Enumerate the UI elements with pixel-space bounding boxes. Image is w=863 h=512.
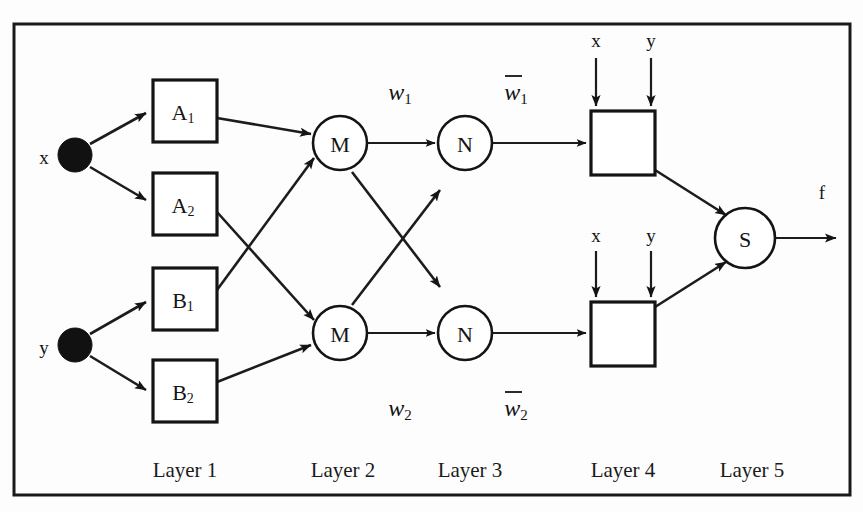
layer3-node-N1-label: N <box>457 132 473 157</box>
weight-label-w1-base: w <box>388 79 404 105</box>
layer1-node-A1-label: A <box>172 100 188 125</box>
layer5-nodes: S f <box>715 182 826 269</box>
layer1-node-A1[interactable]: A1 <box>153 80 217 142</box>
weight-label-w1bar-subscript: 1 <box>520 91 528 107</box>
layer2-node-M1[interactable]: M <box>313 116 367 170</box>
layer5-node-S[interactable]: S <box>715 208 775 268</box>
layer-caption-2: Layer 2 <box>311 458 376 482</box>
output-label-f: f <box>819 182 826 203</box>
input-label-y: y <box>39 337 49 358</box>
diagram-canvas: x y A1 A2 B1 <box>0 0 863 512</box>
edge-A2-to-M2 <box>217 212 314 320</box>
weight-label-w1: w1 <box>388 79 412 107</box>
layer3-node-N2[interactable]: N <box>438 306 492 360</box>
layer1-node-B1-label: B <box>172 288 187 313</box>
edge-y-to-B2 <box>90 356 146 390</box>
layer3-node-N1[interactable]: N <box>438 116 492 170</box>
layer4-node-C1[interactable] <box>591 111 655 175</box>
anfis-diagram: x y A1 A2 B1 <box>0 0 863 512</box>
edges-input-to-layer1 <box>90 113 146 390</box>
weight-label-w2-base: w <box>388 395 404 421</box>
input-nodes: x y <box>39 138 92 362</box>
layer4-node-C2[interactable] <box>591 302 655 366</box>
layer1-node-A2[interactable]: A2 <box>153 173 217 235</box>
input-label-x: x <box>39 147 49 168</box>
layer2-node-M2[interactable]: M <box>313 306 367 360</box>
layer1-node-A2-subscript: 2 <box>187 204 194 219</box>
edge-M1-to-N2 <box>352 172 440 287</box>
layer4-input-label-x-bottom: x <box>591 225 601 246</box>
layer-caption-3: Layer 3 <box>438 458 503 482</box>
layer2-node-M2-label: M <box>330 322 350 347</box>
edge-x-to-A2 <box>90 167 146 200</box>
weight-label-w2-subscript: 2 <box>404 407 412 423</box>
edge-C2-to-S <box>655 262 726 307</box>
layer4-input-label-y-top: y <box>646 30 656 51</box>
edge-y-to-B1 <box>90 302 146 334</box>
edges-layer2-to-layer3 <box>352 143 440 333</box>
layer4-input-label-y-bottom: y <box>646 225 656 246</box>
edges-xy-into-layer4 <box>596 58 651 297</box>
edge-M2-to-N1 <box>352 190 440 305</box>
weight-label-w2bar-subscript: 2 <box>520 407 528 423</box>
layer5-node-S-label: S <box>739 227 751 252</box>
edge-x-to-A1 <box>90 113 146 144</box>
input-node-x[interactable] <box>58 138 92 172</box>
layer3-nodes: N N <box>438 116 492 360</box>
layer-captions: Layer 1 Layer 2 Layer 3 Layer 4 Layer 5 <box>153 458 785 482</box>
layer-caption-1: Layer 1 <box>153 458 218 482</box>
weight-label-w2bar: w2 <box>504 395 528 423</box>
layer1-nodes: A1 A2 B1 B2 <box>153 80 217 422</box>
weight-label-w1-subscript: 1 <box>404 91 412 107</box>
layer2-node-M1-label: M <box>330 132 350 157</box>
layer4-input-label-x-top: x <box>591 30 601 51</box>
layer3-node-N2-label: N <box>457 322 473 347</box>
weight-label-w1bar: w1 <box>504 79 528 107</box>
layer1-node-B2-subscript: 2 <box>187 391 194 406</box>
layer1-node-B1[interactable]: B1 <box>153 268 217 330</box>
layer1-node-B2-label: B <box>172 380 187 405</box>
layer1-node-B1-subscript: 1 <box>187 299 194 314</box>
input-node-y[interactable] <box>58 328 92 362</box>
edge-B2-to-M2 <box>217 345 311 382</box>
layer1-node-A2-label: A <box>172 193 188 218</box>
layer1-node-A1-subscript: 1 <box>187 111 194 126</box>
layer2-nodes: M M <box>313 116 367 360</box>
edge-C1-to-S <box>655 170 726 215</box>
edge-B1-to-M1 <box>217 158 314 290</box>
weight-label-w1bar-base: w <box>504 79 520 105</box>
edges-layer1-to-layer2 <box>217 118 314 382</box>
weight-label-w2bar-base: w <box>504 395 520 421</box>
edge-A1-to-M1 <box>217 118 311 134</box>
layer-caption-4: Layer 4 <box>591 458 656 482</box>
layer1-node-B2[interactable]: B2 <box>153 360 217 422</box>
layer4-nodes: x y x y <box>591 30 656 367</box>
edges-layer3-to-layer4 <box>493 143 586 333</box>
layer-caption-5: Layer 5 <box>720 458 785 482</box>
weight-label-w2: w2 <box>388 395 412 423</box>
